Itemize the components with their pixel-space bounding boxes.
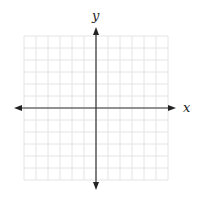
x-axis-label: x — [183, 100, 191, 115]
coordinate-plane: x y — [0, 0, 200, 197]
arrow-down-icon — [93, 182, 99, 190]
arrow-right-icon — [168, 105, 176, 111]
axes — [14, 27, 176, 190]
y-axis-label: y — [91, 8, 100, 23]
arrow-left-icon — [14, 105, 22, 111]
arrow-up-icon — [93, 27, 99, 35]
